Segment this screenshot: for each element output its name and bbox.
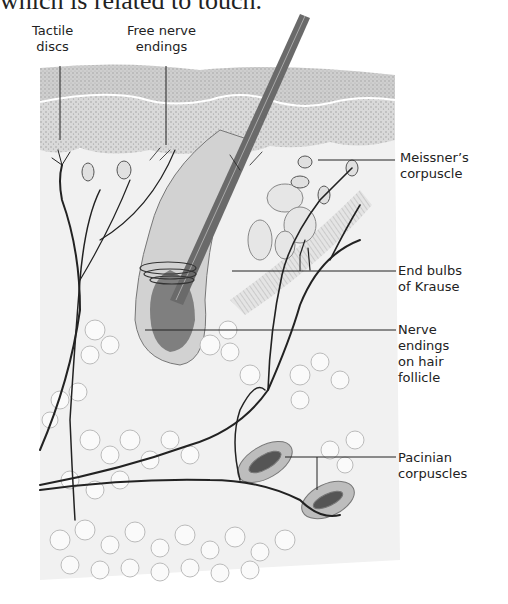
label-line: follicle [398,370,449,386]
label-line: corpuscles [398,466,467,482]
label-line: endings [127,39,196,55]
label-line: Nerve [398,322,449,338]
label-line: Meissner’s [400,150,469,166]
label-line: endings [398,338,449,354]
label-line: Tactile [32,23,73,39]
label-line: discs [32,39,73,55]
label-end-bulbs-of-krause: End bulbs of Krause [398,263,462,295]
label-pacinian-corpuscles: Pacinian corpuscles [398,450,467,482]
label-tactile-discs: Tactile discs [32,23,73,55]
label-line: Pacinian [398,450,467,466]
label-line: Free nerve [127,23,196,39]
label-meissners-corpuscle: Meissner’s corpuscle [400,150,469,182]
label-nerve-endings-on-hair-follicle: Nerve endings on hair follicle [398,322,449,386]
label-free-nerve-endings: Free nerve endings [127,23,196,55]
label-line: of Krause [398,279,462,295]
label-line: End bulbs [398,263,462,279]
label-line: on hair [398,354,449,370]
label-line: corpuscle [400,166,469,182]
skin-cross-section-illustration [0,0,508,604]
